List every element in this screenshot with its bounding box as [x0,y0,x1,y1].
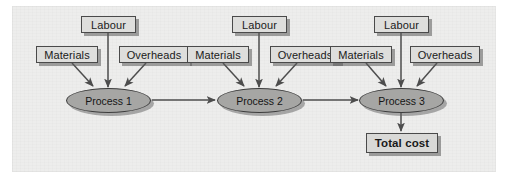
process-ellipse-1[interactable]: Process 1 [66,88,151,113]
total-cost-label: Total cost [375,137,429,149]
materials-box-3[interactable]: Materials [330,46,392,63]
overheads-label-1: Overheads [127,49,182,61]
overheads-box-1[interactable]: Overheads [119,46,189,63]
labour-label-3: Labour [384,19,419,31]
materials-label-1: Materials [44,49,90,61]
arrow-materials-3-to-process-3 [366,63,386,86]
arrow-overheads-1-to-process-1 [125,63,146,86]
labour-label-1: Labour [91,19,126,31]
overheads-label-2: Overheads [278,49,333,61]
labour-box-3[interactable]: Labour [374,16,429,33]
overheads-label-3: Overheads [418,49,473,61]
process-label-1: Process 1 [85,95,132,107]
process-ellipse-3[interactable]: Process 3 [359,88,444,113]
arrow-overheads-3-to-process-3 [417,63,437,86]
process-ellipse-2[interactable]: Process 2 [217,88,302,113]
arrow-overheads-2-to-process-2 [276,63,297,86]
materials-box-1[interactable]: Materials [36,46,98,63]
materials-box-2[interactable]: Materials [187,46,249,63]
arrow-materials-2-to-process-2 [223,63,244,86]
process-label-2: Process 2 [236,95,283,107]
materials-label-2: Materials [195,49,241,61]
labour-box-2[interactable]: Labour [232,16,287,33]
process-label-3: Process 3 [378,95,425,107]
overheads-box-3[interactable]: Overheads [410,46,480,63]
diagram-canvas: Labour Materials Overheads Process 1 Lab… [0,0,516,184]
labour-box-1[interactable]: Labour [81,16,136,33]
total-cost-box[interactable]: Total cost [366,133,438,153]
arrow-materials-1-to-process-1 [72,63,93,86]
labour-label-2: Labour [242,19,277,31]
materials-label-3: Materials [338,49,384,61]
